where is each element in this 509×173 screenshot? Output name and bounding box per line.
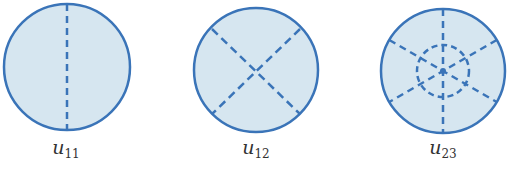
mode-u12-figure <box>194 8 318 132</box>
label-subscript: 23 <box>441 147 456 161</box>
mode-label-u12: u12 <box>242 136 270 161</box>
mode-u23-figure <box>381 9 505 133</box>
mode-label-u23: u23 <box>429 136 457 161</box>
label-base: u <box>429 136 441 158</box>
mode-label-u11: u11 <box>52 136 80 161</box>
label-base: u <box>242 136 254 158</box>
mode-u11-figure <box>4 4 130 130</box>
label-base: u <box>52 136 64 158</box>
label-subscript: 11 <box>64 147 79 161</box>
label-subscript: 12 <box>254 147 269 161</box>
center-dot <box>440 68 446 74</box>
